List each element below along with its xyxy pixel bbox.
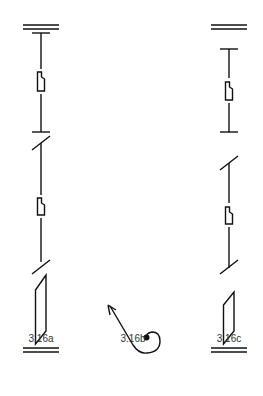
figure-label-a: 3.16a	[11, 333, 71, 344]
figure-label-b: 3.16b	[103, 333, 163, 344]
double-bar-bottom-icon	[211, 348, 247, 352]
figure-3-16b	[108, 305, 160, 353]
notched-block-icon	[38, 72, 45, 91]
figure-3-16a	[23, 25, 59, 352]
figure-3-16c	[211, 25, 247, 352]
double-bar-top-icon	[23, 25, 59, 29]
slash-break-icon	[32, 260, 50, 274]
notched-block-icon	[226, 207, 233, 224]
notched-block-icon	[226, 82, 233, 100]
notched-block-icon	[38, 198, 45, 215]
curl-arrow-icon	[110, 306, 160, 353]
figure-label-c: 3.16c	[199, 333, 259, 344]
double-bar-top-icon	[211, 25, 247, 29]
double-bar-bottom-icon	[23, 348, 59, 352]
